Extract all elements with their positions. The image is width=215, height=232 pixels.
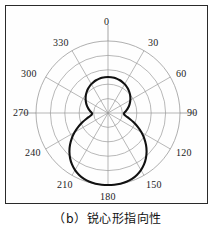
angle-label-210: 210 (57, 180, 73, 190)
angle-label-0: 0 (104, 17, 109, 27)
angle-label-180: 180 (100, 192, 116, 202)
angle-label-150: 150 (146, 180, 162, 190)
angle-label-60: 60 (176, 69, 186, 79)
angle-label-90: 90 (187, 108, 197, 118)
figure-container: 0 30 60 90 120 150 180 210 240 270 300 3… (0, 0, 215, 232)
angle-label-30: 30 (148, 38, 158, 48)
angle-label-330: 330 (53, 38, 69, 48)
polar-plot (0, 0, 215, 209)
figure-caption: （b）锐心形指向性 (0, 210, 215, 228)
angle-label-240: 240 (25, 148, 41, 158)
angle-label-300: 300 (21, 69, 37, 79)
angle-label-270: 270 (13, 108, 29, 118)
angle-label-120: 120 (176, 148, 192, 158)
polar-spokes (36, 41, 180, 185)
